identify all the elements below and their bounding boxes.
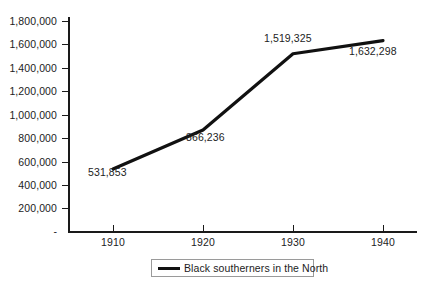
legend-entry-label: Black southerners in the North	[184, 262, 328, 274]
y-axis-label-0: -	[53, 225, 57, 237]
x-axis-label-1940: 1940	[371, 236, 395, 248]
y-axis-tick-200000	[62, 208, 69, 209]
y-axis-tick-400000	[62, 185, 69, 186]
y-axis-tick-1600000	[62, 44, 69, 45]
y-axis-tick-1000000	[62, 115, 69, 116]
y-axis-label-400000: 400,000	[18, 179, 57, 191]
x-axis-label-1910: 1910	[101, 236, 125, 248]
x-axis-label-1930: 1930	[281, 236, 305, 248]
chart-legend: Black southerners in the North	[151, 259, 314, 277]
data-label-1910: 531,853	[88, 166, 127, 178]
y-axis-label-1800000: 1,800,000	[9, 15, 57, 27]
y-axis-label-1600000: 1,600,000	[9, 38, 57, 50]
y-axis-line	[68, 17, 70, 233]
x-axis-tick-1910	[113, 225, 114, 232]
y-axis-label-200000: 200,000	[18, 202, 57, 214]
y-axis-tick-1400000	[62, 68, 69, 69]
y-axis-label-600000: 600,000	[18, 156, 57, 168]
x-axis-tick-1940	[383, 225, 384, 232]
y-axis-label-1200000: 1,200,000	[9, 85, 57, 97]
y-axis-tick-1800000	[62, 21, 69, 22]
x-axis-line	[68, 231, 417, 233]
y-axis-label-800000: 800,000	[18, 132, 57, 144]
data-label-1930: 1,519,325	[264, 32, 312, 44]
data-label-1940: 1,632,298	[349, 45, 397, 57]
x-axis-label-1920: 1920	[191, 236, 215, 248]
legend-line-swatch-icon	[158, 267, 180, 270]
y-axis-tick-1200000	[62, 91, 69, 92]
y-axis-tick-800000	[62, 138, 69, 139]
x-axis-tick-1920	[203, 225, 204, 232]
data-label-1920: 866,236	[186, 131, 225, 143]
y-axis-label-1000000: 1,000,000	[9, 109, 57, 121]
line-chart: 1,800,000 1,600,000 1,400,000 1,200,000 …	[0, 0, 431, 293]
y-axis-tick-600000	[62, 162, 69, 163]
y-axis-label-1400000: 1,400,000	[9, 62, 57, 74]
x-axis-tick-1930	[293, 225, 294, 232]
